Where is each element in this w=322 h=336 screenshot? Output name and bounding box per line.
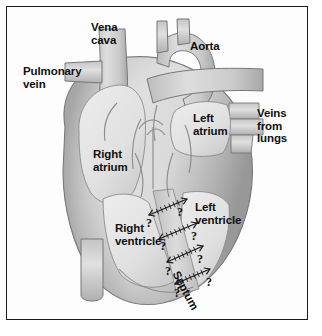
question-mark-q1: ? <box>177 205 183 220</box>
label-pulmonary-vein: Pulmonary vein <box>23 65 82 90</box>
question-mark-q8: ? <box>174 286 180 301</box>
label-right-atrium: Right atrium <box>93 148 128 173</box>
label-left-atrium: Left atrium <box>193 112 228 137</box>
question-mark-q4: ? <box>160 239 166 254</box>
question-mark-q7: ? <box>206 275 212 290</box>
heart-illustration <box>7 7 307 319</box>
label-left-ventricle: Left ventricle <box>195 201 241 226</box>
label-vena-cava: Vena cava <box>91 21 117 46</box>
question-mark-q2: ? <box>146 216 152 231</box>
pulmonary-vein-stub-1 <box>229 103 259 119</box>
inferior-vena-cava <box>81 239 103 301</box>
label-right-ventricle: Right ventricle <box>115 222 161 247</box>
right-atrium-chamber <box>79 85 146 204</box>
question-mark-q3: ? <box>191 229 197 244</box>
aortic-branch-left <box>157 21 168 53</box>
label-veins-from-lungs: Veins from lungs <box>257 107 287 145</box>
question-mark-q6: ? <box>165 264 171 279</box>
pulmonary-vein-stub-3 <box>231 135 253 153</box>
diagram-frame: Vena cavaAortaPulmonary veinLeft atriumV… <box>6 6 308 320</box>
question-mark-q5: ? <box>197 252 203 267</box>
aortic-branch-right <box>177 19 190 45</box>
label-aorta: Aorta <box>190 40 220 53</box>
heart-diagram-figure: Vena cavaAortaPulmonary veinLeft atriumV… <box>0 0 322 336</box>
